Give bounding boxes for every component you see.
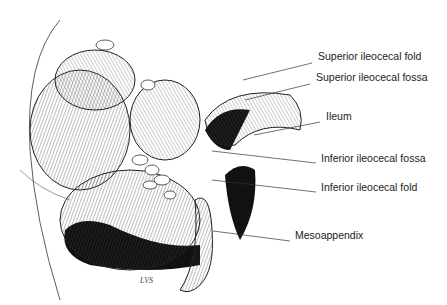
label-superior-ileocecal-fold: Superior ileocecal fold xyxy=(318,50,421,62)
label-superior-ileocecal-fossa: Superior ileocecal fossa xyxy=(316,71,427,83)
label-ileum: Ileum xyxy=(326,110,352,122)
label-mesoappendix: Mesoappendix xyxy=(295,229,363,241)
anatomical-figure: LVS Superior ileocecal fold Superior ile… xyxy=(0,0,447,305)
signature: LVS xyxy=(139,276,153,285)
label-inferior-ileocecal-fold: Inferior ileocecal fold xyxy=(321,181,417,193)
label-inferior-ileocecal-fossa: Inferior ileocecal fossa xyxy=(321,152,425,164)
